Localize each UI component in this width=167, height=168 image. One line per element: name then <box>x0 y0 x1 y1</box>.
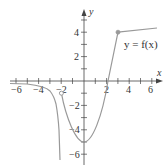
y-tick-label: 4 <box>74 27 79 38</box>
x-tick-label: −6 <box>11 84 22 95</box>
y-tick-label: −2 <box>69 100 80 111</box>
y-tick-label: −6 <box>69 149 80 160</box>
x-tick-label: 4 <box>126 84 131 95</box>
closed-point-marker <box>116 30 120 34</box>
y-tick-label: 2 <box>74 51 79 62</box>
linear-branch <box>118 28 157 32</box>
function-label: y = f(x) <box>124 38 158 51</box>
graph-svg: −6 −4 −2 2 4 6 4 2 −2 −4 −6 y x y = f(x) <box>0 0 167 168</box>
x-axis-label: x <box>156 67 162 78</box>
graph-figure: −6 −4 −2 2 4 6 4 2 −2 −4 −6 y x y = f(x) <box>0 0 167 168</box>
x-tick-label: 6 <box>148 84 153 95</box>
open-circle-marker <box>59 91 63 95</box>
x-arrow-icon <box>156 79 163 84</box>
y-arrow-icon <box>82 9 87 16</box>
y-axis-label: y <box>88 6 94 17</box>
